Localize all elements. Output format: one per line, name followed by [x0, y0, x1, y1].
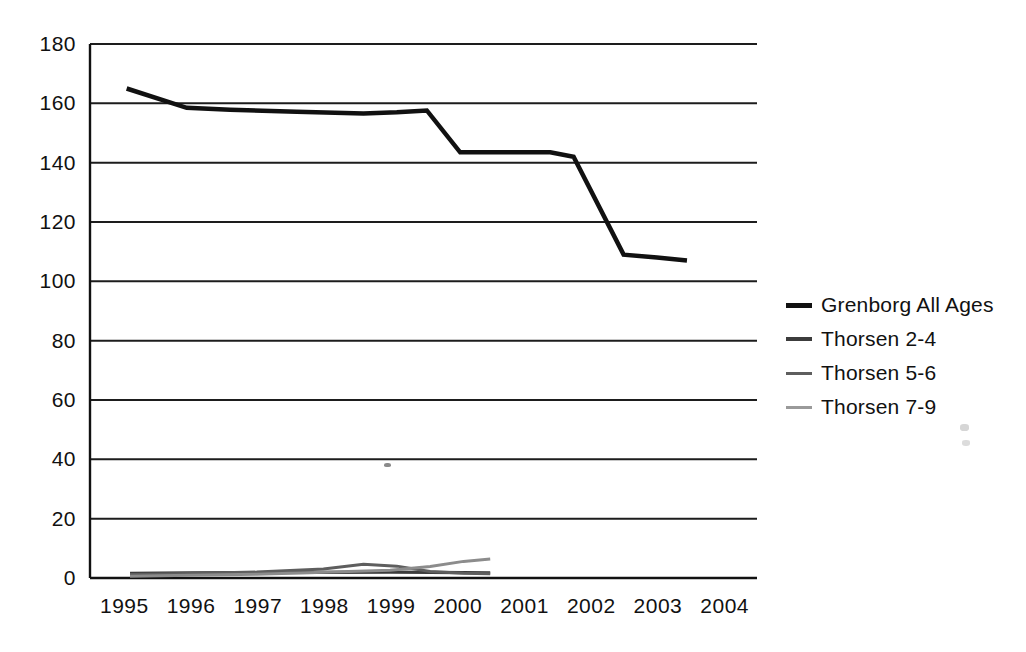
legend-item[interactable]: Thorsen 5-6: [786, 356, 1022, 390]
y-tick-label: 80: [14, 329, 76, 353]
data-series-group: [127, 89, 687, 577]
x-tick-label: 1996: [158, 594, 225, 618]
x-tick-label: 2003: [624, 594, 691, 618]
y-tick-label: 140: [14, 151, 76, 175]
legend-swatch-icon: [786, 406, 812, 409]
x-tick-label: 1999: [358, 594, 425, 618]
scan-artifact-dot-3: [962, 440, 970, 446]
legend-swatch-icon: [786, 372, 812, 375]
legend-label: Thorsen 5-6: [821, 361, 936, 385]
y-tick-label: 180: [14, 32, 76, 56]
legend-label: Thorsen 2-4: [821, 327, 936, 351]
y-tick-label: 0: [14, 566, 76, 590]
chart-figure: 180160140120100806040200 199519961997199…: [0, 0, 1026, 652]
scan-artifact-dot-2: [960, 424, 969, 431]
plot-frame: [90, 44, 757, 578]
x-tick-label: 1998: [291, 594, 358, 618]
legend-item[interactable]: Thorsen 7-9: [786, 390, 1022, 424]
scan-artifact-dot: [384, 463, 391, 467]
legend-label: Thorsen 7-9: [821, 395, 936, 419]
y-tick-label: 120: [14, 210, 76, 234]
y-tick-label: 100: [14, 269, 76, 293]
y-tick-label: 20: [14, 507, 76, 531]
series-line: [127, 89, 687, 261]
x-tick-label: 2001: [491, 594, 558, 618]
x-tick-label: 1997: [224, 594, 291, 618]
y-tick-label: 60: [14, 388, 76, 412]
x-tick-label: 2004: [691, 594, 758, 618]
grid-lines: [90, 44, 757, 519]
chart-legend: Grenborg All AgesThorsen 2-4Thorsen 5-6T…: [786, 288, 1022, 424]
x-tick-label: 2000: [424, 594, 491, 618]
y-tick-label: 160: [14, 91, 76, 115]
y-tick-label: 40: [14, 447, 76, 471]
legend-swatch-icon: [786, 303, 812, 308]
legend-label: Grenborg All Ages: [821, 293, 994, 317]
legend-item[interactable]: Grenborg All Ages: [786, 288, 1022, 322]
x-tick-label: 2002: [558, 594, 625, 618]
legend-swatch-icon: [786, 337, 812, 341]
legend-item[interactable]: Thorsen 2-4: [786, 322, 1022, 356]
x-tick-label: 1995: [91, 594, 158, 618]
